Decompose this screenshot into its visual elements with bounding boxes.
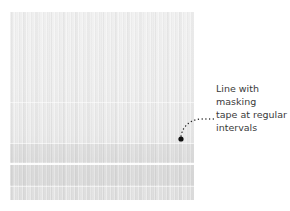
annotation-line-1: Line with masking [216,82,290,108]
fabric-light-band [10,186,194,187]
annotation-label: Line with masking tape at regular interv… [216,82,290,134]
fabric-shaded-band [10,144,194,162]
annotation-line-3: intervals [216,121,290,134]
fabric-panel [10,12,194,200]
fabric-seam-line [10,102,194,103]
annotation-line-2: tape at regular [216,108,290,121]
masking-tape-line [10,143,194,144]
fabric-shaded-band [10,165,194,185]
